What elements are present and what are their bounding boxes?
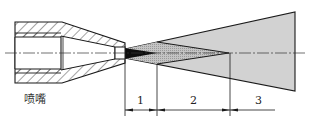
nozzle-spray-diagram: 1 2 3 喷嘴 — [0, 0, 311, 126]
nozzle-body — [15, 22, 125, 83]
zone-1-label: 1 — [137, 94, 144, 107]
zone-3-label: 3 — [255, 94, 262, 107]
nozzle-label: 喷嘴 — [24, 93, 46, 106]
zone-2-label: 2 — [190, 94, 197, 107]
